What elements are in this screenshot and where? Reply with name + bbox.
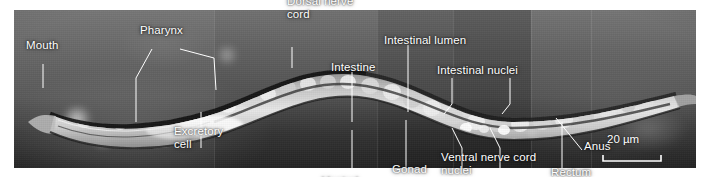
- label-pharynx: Pharynx: [140, 24, 183, 37]
- label-intestinal-lumen: Intestinal lumen: [384, 34, 466, 47]
- label-ventral-nerve-cord: Ventral nerve cord: [322, 175, 377, 177]
- label-excretory-cell: Excretory cell: [174, 125, 223, 150]
- micrograph-figure: MouthPharynxExcretory cellDorsal nerve c…: [0, 0, 711, 177]
- label-dorsal-nerve-cord: Dorsal nerve cord: [287, 0, 353, 20]
- label-mouth: Mouth: [26, 39, 58, 52]
- label-rectum: Rectum: [551, 166, 591, 178]
- label-ventral-nerve-cord-nuclei: Ventral nerve cord nuclei: [441, 151, 536, 176]
- label-gonad: Gonad: [392, 163, 427, 176]
- scale-bar-label: 20 µm: [607, 133, 639, 146]
- label-intestine: Intestine: [331, 61, 375, 74]
- label-intestinal-nuclei: Intestinal nuclei: [437, 64, 518, 77]
